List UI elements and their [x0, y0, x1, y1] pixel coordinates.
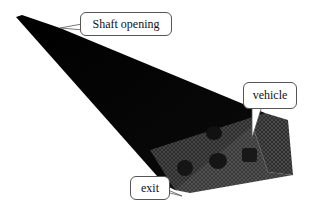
- vehicle-label: vehicle: [243, 82, 297, 109]
- vehicle-1: [206, 126, 222, 140]
- vehicle-4: [242, 148, 257, 162]
- vehicle-2: [209, 153, 227, 169]
- exit-label: exit: [130, 176, 170, 200]
- vehicle-3: [177, 160, 193, 176]
- shaft-opening-label: Shaft opening: [80, 12, 172, 36]
